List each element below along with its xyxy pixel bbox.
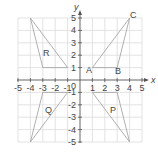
x-tick-label: -3	[39, 83, 47, 93]
origin-label: 0	[71, 81, 76, 91]
vertex-label-b: B	[115, 66, 121, 76]
x-tick-label: 5	[139, 83, 144, 93]
y-tick-label: 3	[71, 38, 76, 48]
y-axis-label: y	[73, 2, 79, 12]
triangle-label-q: Q	[45, 105, 52, 115]
triangle-label-r: R	[43, 48, 50, 58]
y-tick-label: 2	[71, 50, 76, 60]
y-tick-label: -2	[68, 100, 76, 110]
x-tick-label: 3	[115, 83, 120, 93]
vertex-label-a: A	[86, 65, 92, 75]
y-axis-arrow-icon	[78, 10, 82, 15]
y-tick-label: -4	[68, 125, 76, 135]
x-tick-label: 2	[102, 83, 107, 93]
x-tick-label: -2	[51, 83, 59, 93]
x-tick-label: -5	[14, 83, 22, 93]
y-tick-label: 5	[71, 13, 76, 23]
vertex-label-c: C	[130, 10, 137, 20]
y-tick-label: 1	[71, 63, 76, 73]
y-tick-label: -5	[68, 137, 76, 147]
y-tick-label: -3	[68, 112, 76, 122]
x-tick-label: 1	[90, 83, 95, 93]
x-axis-arrow-icon	[144, 78, 149, 82]
y-tick-label: 4	[71, 25, 76, 35]
grid-svg: -5 -4 -3 -2 -1 1 2 3 4 5 5 4 3 2 1 -1 -2…	[0, 0, 158, 155]
x-axis-label: x	[150, 75, 156, 85]
coordinate-grid-diagram: -5 -4 -3 -2 -1 1 2 3 4 5 5 4 3 2 1 -1 -2…	[0, 0, 158, 155]
x-tick-label: 4	[127, 83, 132, 93]
triangle-label-p: P	[110, 105, 116, 115]
x-tick-labels: -5 -4 -3 -2 -1 1 2 3 4 5	[14, 83, 145, 93]
x-tick-label: -4	[26, 83, 34, 93]
